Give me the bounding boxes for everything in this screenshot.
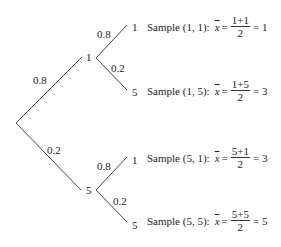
numerator: 5+5 <box>231 208 250 221</box>
fraction: 5+5 2 <box>231 208 250 233</box>
prob-label: 0.2 <box>113 196 127 207</box>
result: = 1 <box>253 21 267 33</box>
result: = 3 <box>253 152 267 164</box>
equals: = <box>222 21 228 33</box>
node-value: 1 <box>86 52 92 63</box>
sample-row: Sample (5, 5): x = 5+5 2 = 5 <box>147 208 267 233</box>
prob-label: 0.8 <box>97 161 111 172</box>
branch-root-to-1 <box>16 57 82 123</box>
numerator: 5+1 <box>231 145 250 158</box>
sample-row: Sample (5, 1): x = 5+1 2 = 3 <box>147 145 267 170</box>
fraction: 1+1 2 <box>231 14 250 39</box>
xbar-symbol: x <box>215 215 220 227</box>
xbar-symbol: x <box>215 21 220 33</box>
leaf-value: 1 <box>132 22 138 33</box>
result: = 5 <box>253 215 267 227</box>
equals: = <box>222 85 228 97</box>
prob-label: 0.2 <box>47 145 61 156</box>
fraction: 5+1 2 <box>231 145 250 170</box>
equals: = <box>222 215 228 227</box>
node-value: 5 <box>86 185 92 196</box>
numerator: 1+5 <box>231 78 250 91</box>
equals: = <box>222 152 228 164</box>
xbar-symbol: x <box>215 85 220 97</box>
xbar-symbol: x <box>215 152 220 164</box>
sample-label: Sample (1, 5): <box>147 85 210 97</box>
denominator: 2 <box>238 91 244 103</box>
leaf-value: 1 <box>132 155 138 166</box>
branch-root-to-5 <box>16 123 81 190</box>
result: = 3 <box>253 85 267 97</box>
sample-row: Sample (1, 1): x = 1+1 2 = 1 <box>147 14 267 39</box>
sample-label: Sample (1, 1): <box>147 21 210 33</box>
denominator: 2 <box>238 158 244 170</box>
prob-label: 0.8 <box>97 29 111 40</box>
sample-label: Sample (5, 1): <box>147 152 210 164</box>
prob-label: 0.8 <box>33 75 47 86</box>
leaf-value: 5 <box>132 220 138 231</box>
denominator: 2 <box>238 27 244 39</box>
denominator: 2 <box>238 221 244 233</box>
sample-row: Sample (1, 5): x = 1+5 2 = 3 <box>147 78 267 103</box>
numerator: 1+1 <box>231 14 250 27</box>
prob-label: 0.2 <box>111 63 125 74</box>
fraction: 1+5 2 <box>231 78 250 103</box>
sample-label: Sample (5, 5): <box>147 215 210 227</box>
leaf-value: 5 <box>132 87 138 98</box>
